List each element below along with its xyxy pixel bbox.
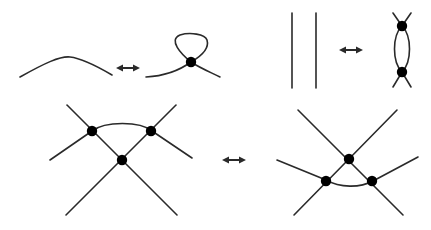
double-arrow-icon xyxy=(222,157,246,164)
virtual-crossing-icon xyxy=(397,21,407,31)
virtual-crossing-icon xyxy=(321,176,331,186)
virtual-crossing-icon xyxy=(344,154,354,164)
horizontal-strand xyxy=(50,124,192,161)
simple-arc xyxy=(20,57,112,77)
move-vr2 xyxy=(292,13,411,88)
virtual-crossing-icon xyxy=(146,126,156,136)
move-vr3-left xyxy=(50,105,192,215)
virtual-crossing-icon xyxy=(87,126,97,136)
virtual-crossing-icon xyxy=(117,155,127,165)
kink-strand xyxy=(146,34,220,77)
move-vr1 xyxy=(20,34,220,77)
double-arrow-icon xyxy=(116,65,140,72)
double-arrow-icon xyxy=(339,47,363,54)
virtual-crossing-icon xyxy=(397,67,407,77)
virtual-reidemeister-diagram xyxy=(0,0,431,230)
move-vr3-right xyxy=(277,110,418,215)
virtual-crossing-icon xyxy=(367,176,377,186)
virtual-crossing-icon xyxy=(186,57,196,67)
